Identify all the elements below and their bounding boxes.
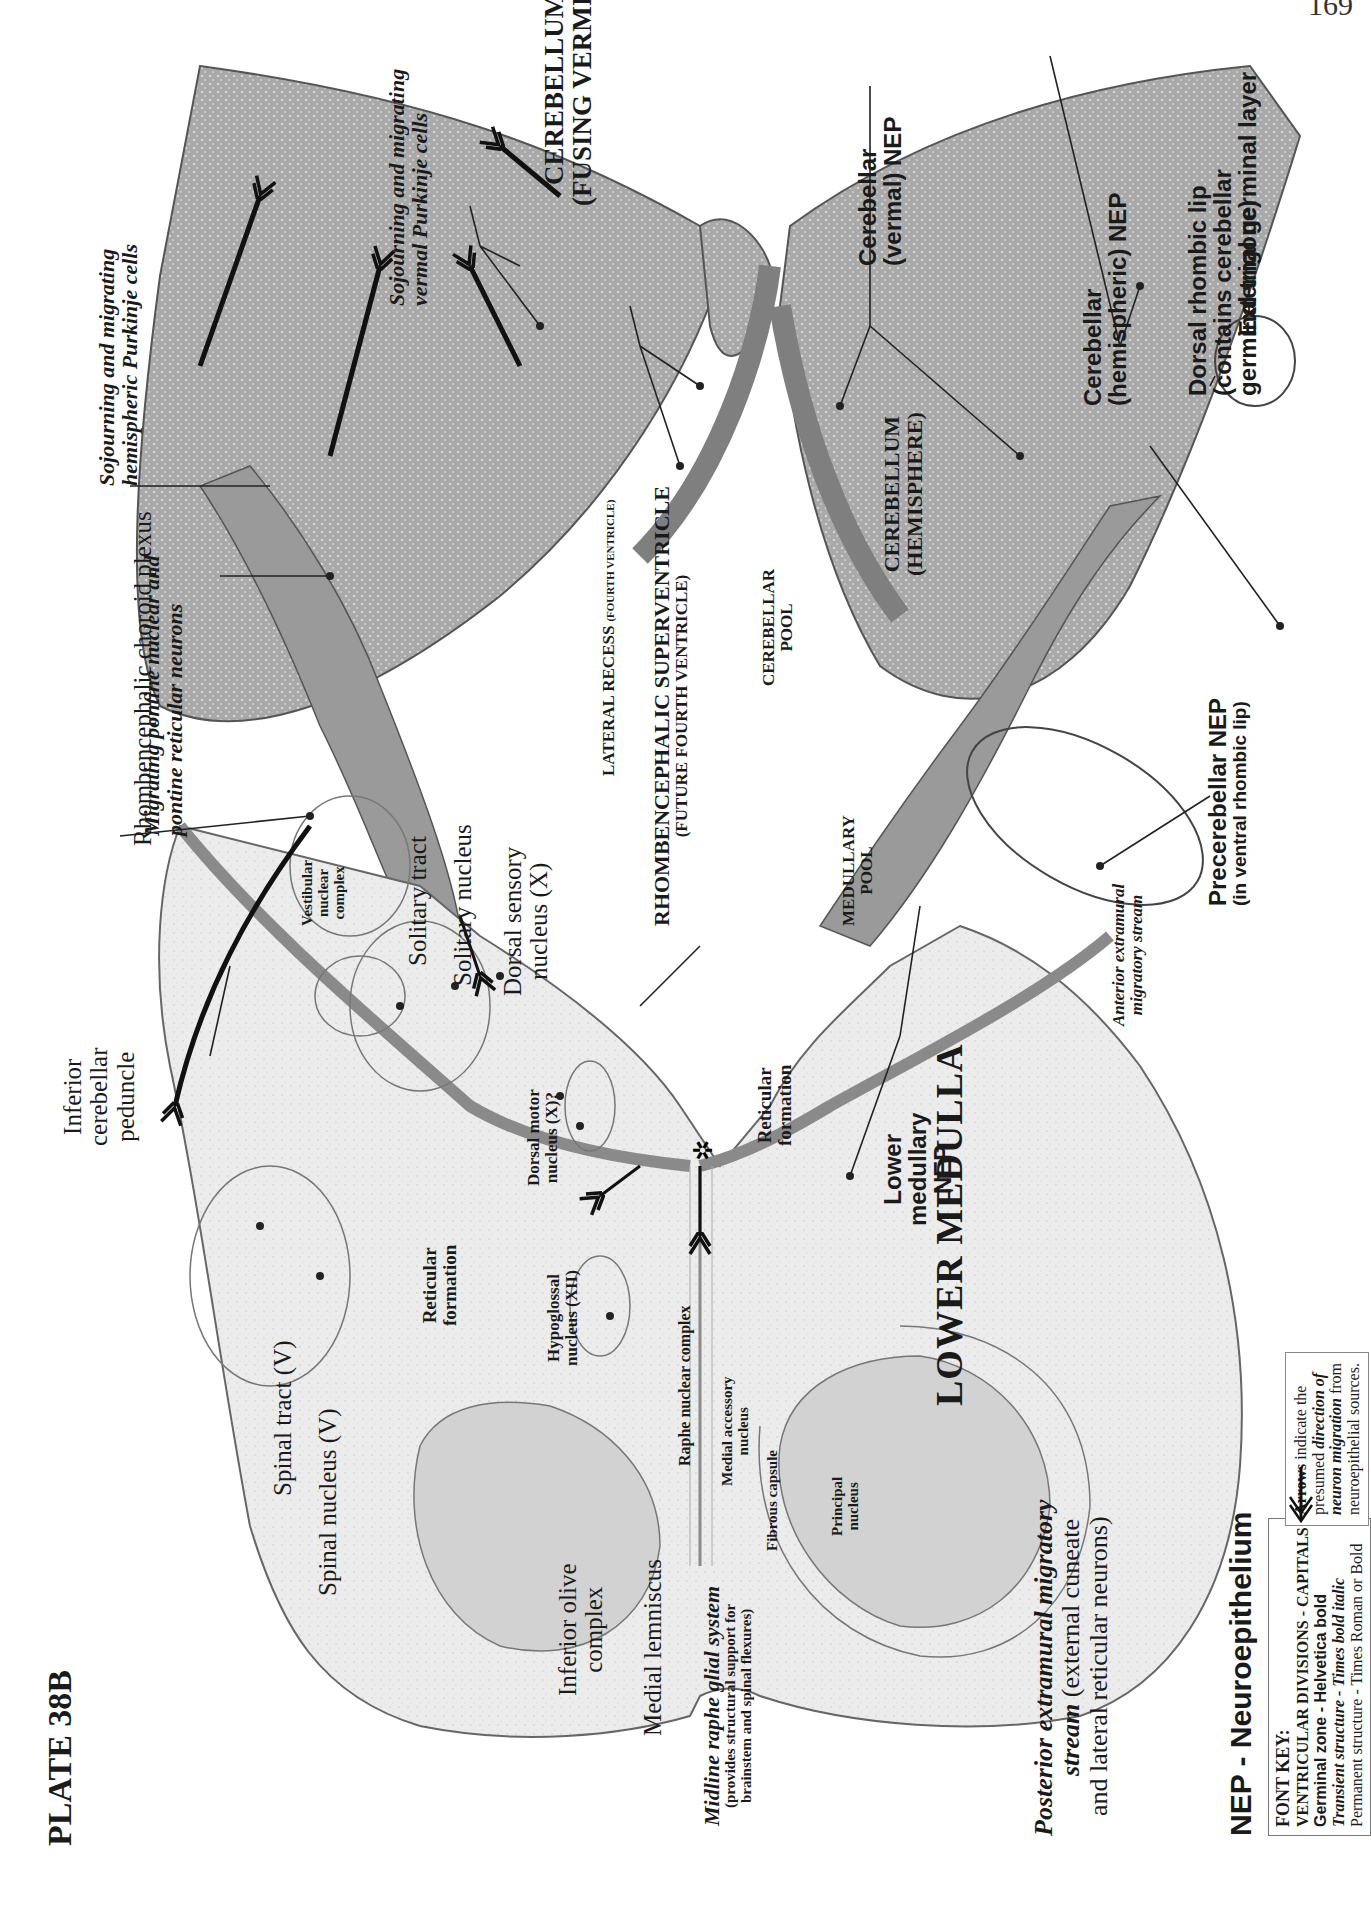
region-lateral-recess-sub: (FOURTH VENTRICLE) (604, 500, 616, 622)
label-inferior-olive-line2: complex (581, 1563, 607, 1696)
label-solitary-tract: Solitary tract (405, 836, 431, 966)
label-dorsal-rhombic-lip-line1: Dorsal rhombic lip (1185, 169, 1210, 396)
font-key-line-ventricular: VENTRICULAR DIVISIONS - CAPITALS (1294, 1527, 1312, 1827)
plate-title: PLATE 38B (42, 1670, 78, 1846)
label-cerebellar-vermal-nep: Cerebellar (vermal) NEP (855, 117, 905, 266)
double-arrow-icon (1286, 1465, 1316, 1525)
region-superventricle-line1: RHOMBENCEPHALIC SUPERVENTRICLE (650, 486, 673, 926)
label-posterior-extramural: Posterior extramural migratory stream (e… (1030, 1499, 1112, 1836)
label-precerebellar-nep-line1: Precerebellar NEP (1205, 698, 1230, 906)
label-spinal-tract: Spinal tract (V) (270, 1340, 296, 1496)
label-icp-line2: cerebellar (86, 1047, 112, 1146)
label-dorsal-rhombic-lip: Dorsal rhombic lip (contains cerebellar … (1185, 169, 1261, 396)
region-cerebellum-vermis: CEREBELLUM (FUSING VERMIS) (540, 0, 597, 206)
label-medial-accessory: Medial accessory nucleus (720, 1376, 752, 1486)
region-cerebellar-pool-line2: POOL (778, 569, 796, 686)
label-reticular-left: Reticular formation (420, 1245, 460, 1326)
label-precerebellar-nep: Precerebellar NEP (in ventral rhombic li… (1205, 698, 1250, 906)
label-vestibular-line3: complex (332, 860, 348, 926)
label-fibrous-capsule: Fibrous capsule (765, 1450, 781, 1551)
label-spinal-nucleus: Spinal nucleus (V) (315, 1409, 341, 1596)
font-key-line-permanent: Permanent structure - Times Roman or Bol… (1348, 1527, 1366, 1827)
label-lower-medullary-nep-line1: Lower (880, 1113, 905, 1226)
label-medial-lemniscus: Medial lemniscus (640, 1559, 666, 1736)
label-dorsal-motor-line1: Dorsal motor (525, 1089, 543, 1186)
label-icp-line3: peduncle (113, 1047, 139, 1146)
label-cerebellar-hemispheric-nep-line2: (hemispheric) NEP (1105, 193, 1130, 406)
label-reticular-left-line1: Reticular (420, 1245, 440, 1326)
label-cerebellar-vermal-nep-line2: (vermal) NEP (880, 117, 905, 266)
arrow-legend-box: Arrows indicate the presumed direction o… (1285, 1352, 1369, 1526)
label-lower-medullary-nep-line2: medullary (905, 1113, 930, 1226)
label-solitary-nucleus: Solitary nucleus (450, 824, 476, 986)
label-reticular-right-line2: formation (775, 1065, 795, 1146)
label-vestibular-line1: Vestibular (300, 860, 316, 926)
label-midline-raphe-title: Midline raphe glial system (700, 1586, 723, 1826)
label-midline-raphe-line2: brainstem and spinal flexures) (739, 1586, 755, 1826)
arrow-legend-text4: neuroepithelial sources. (1345, 1363, 1363, 1515)
label-vermal-purkinje-line1: Sojourning and migrating (385, 69, 408, 306)
region-superventricle-line2: (FUTURE FOURTH VENTRICLE) (673, 486, 691, 926)
label-nep-legend: NEP - Neuroepithelium (1225, 1512, 1257, 1837)
label-hemispheric-purkinje: Sojourning and migrating hemispheric Pur… (95, 244, 141, 486)
label-dorsal-sensory: Dorsal sensory nucleus (X) (500, 847, 553, 996)
label-medial-accessory-line2: nucleus (736, 1376, 752, 1486)
arrow-legend-text3: from (1327, 1363, 1344, 1398)
label-dorsal-motor: Dorsal motor nucleus (X)? (525, 1089, 561, 1186)
label-lower-medullary-nep: Lower medullary NEP (880, 1113, 956, 1226)
arrow-legend-italic2: neuron migration (1327, 1398, 1344, 1515)
label-migrating-pontine-line2: pontine reticular neurons (163, 555, 186, 836)
region-cerebellar-pool-line1: CEREBELLAR (760, 569, 778, 686)
label-inferior-olive-line1: Inferior olive (555, 1563, 581, 1696)
label-posterior-extramural-rest: (external cuneate (1056, 1519, 1085, 1704)
label-dorsal-sensory-line2: nucleus (X) (526, 847, 552, 996)
label-medial-accessory-line1: Medial accessory (720, 1376, 736, 1486)
label-vestibular-line2: nuclear (316, 860, 332, 926)
font-key-line-transient: Transient structure - Times bold italic (1330, 1527, 1348, 1827)
region-cerebellar-pool: CEREBELLAR POOL (760, 569, 796, 686)
label-cerebellar-hemispheric-nep: Cerebellar (hemispheric) NEP (1080, 193, 1130, 406)
label-anterior-extramural-line2: migratory stream (1128, 884, 1146, 1026)
label-posterior-extramural-title2: stream (1056, 1704, 1085, 1776)
label-vermal-purkinje: Sojourning and migrating vermal Purkinje… (385, 69, 431, 306)
label-dorsal-rhombic-lip-line2: (contains cerebellar (1210, 169, 1235, 396)
label-hypoglossal-line2: nucleus (XII) (563, 1270, 581, 1366)
font-key-title: FONT KEY: (1273, 1527, 1294, 1827)
region-cerebellum-hemisphere: CEREBELLUM (HEMISPHERE) (880, 412, 926, 576)
region-medullary-pool: MEDULLARY POOL (840, 815, 876, 926)
label-lower-medullary-nep-line3: NEP (930, 1113, 955, 1226)
label-anterior-extramural: Anterior extramural migratory stream (1110, 884, 1146, 1026)
label-precerebellar-nep-line2: (in ventral rhombic lip) (1230, 698, 1250, 906)
region-cerebellum-hemisphere-line2: (HEMISPHERE) (903, 412, 926, 576)
label-reticular-right-line1: Reticular (755, 1065, 775, 1146)
arrow-legend-text1: indicate the (1292, 1386, 1309, 1464)
label-raphe-nuclear: Raphe nuclear complex (677, 1305, 694, 1466)
label-principal-nucleus-line1: Principal (830, 1477, 846, 1536)
asterisk-icon: ✲ (688, 1139, 718, 1161)
label-hypoglossal-line1: Hypoglossal (545, 1270, 563, 1366)
label-choroid-plexus: Rhombencephalic choroid plexus (130, 511, 156, 846)
region-superventricle: RHOMBENCEPHALIC SUPERVENTRICLE (FUTURE F… (650, 486, 691, 926)
label-dorsal-motor-line2: nucleus (X)? (543, 1089, 561, 1186)
label-inferior-olive: Inferior olive complex (555, 1563, 608, 1696)
region-cerebellum-vermis-line2: (FUSING VERMIS) (568, 0, 596, 206)
label-dorsal-sensory-line1: Dorsal sensory (500, 847, 526, 996)
label-hemispheric-purkinje-line2: hemispheric Purkinje cells (118, 244, 141, 486)
label-inferior-cerebellar-peduncle: Inferior cerebellar peduncle (60, 1047, 139, 1146)
label-icp-line1: Inferior (60, 1047, 86, 1146)
region-cerebellum-hemisphere-line1: CEREBELLUM (880, 412, 903, 576)
label-hypoglossal: Hypoglossal nucleus (XII) (545, 1270, 581, 1366)
label-posterior-extramural-line3: and lateral reticular neurons) (1085, 1499, 1112, 1836)
label-vermal-purkinje-line2: vermal Purkinje cells (408, 69, 431, 306)
label-dorsal-rhombic-lip-line3: germinal trigone) (1235, 169, 1260, 396)
arrow-legend-italic1: direction of (1310, 1373, 1327, 1449)
font-key-box: FONT KEY: VENTRICULAR DIVISIONS - CAPITA… (1268, 1518, 1371, 1836)
label-principal-nucleus-line2: nucleus (846, 1477, 862, 1536)
region-lateral-recess: LATERAL RECESS (FOURTH VENTRICLE) (600, 500, 618, 776)
region-medullary-pool-line1: MEDULLARY (840, 815, 858, 926)
font-key-line-germinal: Germinal zone - Helvetica bold (1312, 1527, 1330, 1827)
label-reticular-right: Reticular formation (755, 1065, 795, 1146)
label-midline-raphe-line1: (provides structural support for (723, 1586, 739, 1826)
